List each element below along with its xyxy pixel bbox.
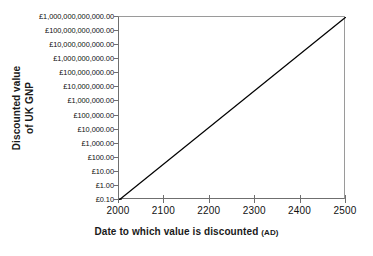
- y-axis-tick-label: £10,000,000,000.00: [18, 40, 114, 49]
- y-axis-tick-label: £1,000,000,000,000.00: [18, 12, 114, 21]
- plot-area: [118, 16, 345, 199]
- y-axis-tick-label: £100,000,000.00: [18, 68, 114, 77]
- x-axis-tick-mark: [254, 195, 255, 203]
- x-axis-title-era: (AD): [261, 228, 278, 237]
- y-axis-tick-label: £10,000.00: [18, 124, 114, 133]
- y-axis-tick-label: £1.00: [18, 180, 114, 189]
- x-axis-title-text: Date to which value is discounted: [94, 226, 258, 237]
- y-axis-tick-label: £10.00: [18, 166, 114, 175]
- y-axis-tick-label: £0.10: [18, 195, 114, 204]
- chart-figure: Discounted value of UK GNP £0.10£1.00£10…: [0, 0, 373, 256]
- x-axis-title: Date to which value is discounted (AD): [0, 226, 373, 237]
- data-series-line: [119, 17, 346, 200]
- x-axis-tick-mark: [163, 195, 164, 203]
- plot-canvas: [119, 17, 346, 200]
- y-axis-tick-label: £100.00: [18, 152, 114, 161]
- y-axis-tick-label: £1,000,000.00: [18, 96, 114, 105]
- x-axis-tick-mark: [118, 195, 119, 203]
- x-axis-tick-mark: [300, 195, 301, 203]
- y-axis-tick-label: £100,000,000,000.00: [18, 26, 114, 35]
- x-axis-tick-label: 2500: [315, 205, 373, 216]
- y-axis-tick-labels: £0.10£1.00£10.00£100.00£1,000.00£10,000.…: [18, 0, 114, 256]
- y-axis-tick-label: £100,000.00: [18, 110, 114, 119]
- y-axis-tick-label: £1,000,000,000.00: [18, 54, 114, 63]
- y-axis-tick-label: £1,000.00: [18, 138, 114, 147]
- y-axis-tick-label: £10,000,000.00: [18, 82, 114, 91]
- x-axis-tick-mark: [209, 195, 210, 203]
- x-axis-tick-mark: [345, 195, 346, 203]
